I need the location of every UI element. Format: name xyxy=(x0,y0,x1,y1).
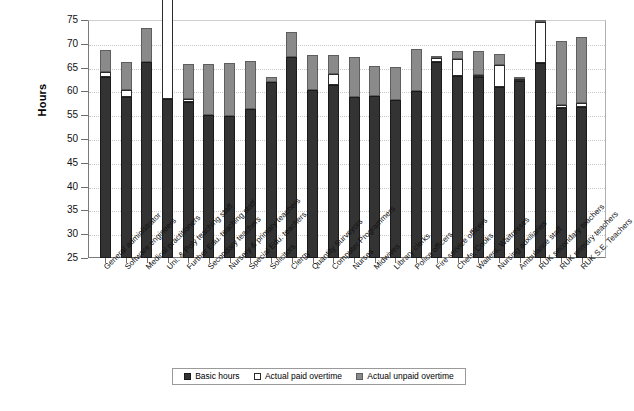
y-axis-tick xyxy=(81,91,88,92)
bar-group[interactable] xyxy=(307,20,318,258)
y-axis-tick xyxy=(81,258,88,259)
bar-segment-basic xyxy=(328,85,339,258)
y-axis-tick xyxy=(81,68,88,69)
bar-segment-basic xyxy=(121,97,132,258)
legend-item-actual-unpaid-overtime: Actual unpaid overtime xyxy=(356,372,453,381)
bar-segment-unpaid xyxy=(349,57,360,97)
bar-segment-unpaid xyxy=(141,28,152,62)
bar-segment-unpaid xyxy=(390,67,401,100)
bar-segment-basic xyxy=(390,100,401,258)
bar-segment-basic xyxy=(307,90,318,259)
bar-segment-unpaid xyxy=(369,66,380,96)
y-axis-title: Hours xyxy=(36,70,48,130)
bar-segment-unpaid xyxy=(535,20,546,22)
bar-segment-basic xyxy=(411,91,422,258)
bar-segment-paid xyxy=(162,0,173,99)
bar-group[interactable] xyxy=(100,20,111,258)
unpaid-swatch-icon xyxy=(356,373,363,380)
bar-segment-unpaid xyxy=(328,55,339,74)
bar-segment-paid xyxy=(576,103,587,107)
bar-segment-unpaid xyxy=(473,51,484,75)
legend-label-actual-unpaid-overtime: Actual unpaid overtime xyxy=(367,372,453,381)
paid-swatch-icon xyxy=(254,373,261,380)
y-axis-tick xyxy=(81,44,88,45)
bar-group[interactable] xyxy=(390,20,401,258)
bar-segment-unpaid xyxy=(556,41,567,105)
bar-segment-basic xyxy=(494,87,505,258)
y-axis-tick xyxy=(81,234,88,235)
y-axis-tick-label: 50 xyxy=(54,134,78,144)
bar-segment-unpaid xyxy=(286,32,297,57)
y-axis-tick-label: 55 xyxy=(54,110,78,120)
bar-segment-unpaid xyxy=(183,64,194,99)
bar-segment-paid xyxy=(100,72,111,77)
y-axis-tick xyxy=(81,163,88,164)
bar-segment-paid xyxy=(473,75,484,77)
bar-segment-paid xyxy=(121,90,132,97)
bar-segment-paid xyxy=(535,22,546,63)
bar-segment-unpaid xyxy=(452,51,463,59)
y-axis-tick-label: 40 xyxy=(54,182,78,192)
bar-segment-unpaid xyxy=(307,55,318,89)
bar-segment-unpaid xyxy=(411,49,422,92)
bar-segment-unpaid xyxy=(100,50,111,72)
legend-label-basic-hours: Basic hours xyxy=(195,372,239,381)
y-axis-tick-label: 35 xyxy=(54,205,78,215)
bar-group[interactable] xyxy=(494,20,505,258)
bar-group[interactable] xyxy=(328,20,339,258)
y-axis-tick-label: 70 xyxy=(54,39,78,49)
bar-segment-paid xyxy=(494,65,505,87)
bar-segment-paid xyxy=(514,79,525,81)
bar-segment-paid xyxy=(328,74,339,84)
y-axis-tick xyxy=(81,210,88,211)
bar-group[interactable] xyxy=(411,20,422,258)
bar-segment-unpaid xyxy=(245,61,256,109)
bar-segment-paid xyxy=(452,59,463,76)
bar-segment-unpaid xyxy=(431,56,442,58)
y-axis-tick-label: 60 xyxy=(54,86,78,96)
bar-group[interactable] xyxy=(556,20,567,258)
bar-segment-unpaid xyxy=(514,77,525,79)
bar-segment-unpaid xyxy=(121,62,132,90)
bar-segment-unpaid xyxy=(203,64,214,115)
y-axis-tick-label: 25 xyxy=(54,253,78,263)
bar-segment-paid xyxy=(431,58,442,62)
legend-label-actual-paid-overtime: Actual paid overtime xyxy=(265,372,342,381)
y-axis-tick-label: 45 xyxy=(54,158,78,168)
bar-group[interactable] xyxy=(431,20,442,258)
y-axis-tick xyxy=(81,115,88,116)
bar-group[interactable] xyxy=(121,20,132,258)
chart-legend: Basic hours Actual paid overtime Actual … xyxy=(172,368,466,385)
legend-item-basic-hours: Basic hours xyxy=(184,372,239,381)
y-axis-tick-label: 75 xyxy=(54,15,78,25)
y-axis-tick-label: 30 xyxy=(54,229,78,239)
bar-segment-basic xyxy=(452,76,463,258)
bar-segment-unpaid xyxy=(224,63,235,115)
bar-segment-unpaid xyxy=(266,77,277,82)
bar-segment-basic xyxy=(431,62,442,258)
bar-segment-paid xyxy=(556,105,567,108)
y-axis-tick xyxy=(81,20,88,21)
bar-segment-paid xyxy=(183,99,194,102)
basic-swatch-icon xyxy=(184,373,191,380)
bar-group[interactable] xyxy=(452,20,463,258)
bar-segment-unpaid xyxy=(494,54,505,64)
y-axis-tick-label: 65 xyxy=(54,63,78,73)
legend-item-actual-paid-overtime: Actual paid overtime xyxy=(254,372,342,381)
bar-segment-unpaid xyxy=(576,37,587,104)
y-axis-tick xyxy=(81,139,88,140)
bar-segment-basic xyxy=(100,77,111,258)
y-axis-tick xyxy=(81,187,88,188)
